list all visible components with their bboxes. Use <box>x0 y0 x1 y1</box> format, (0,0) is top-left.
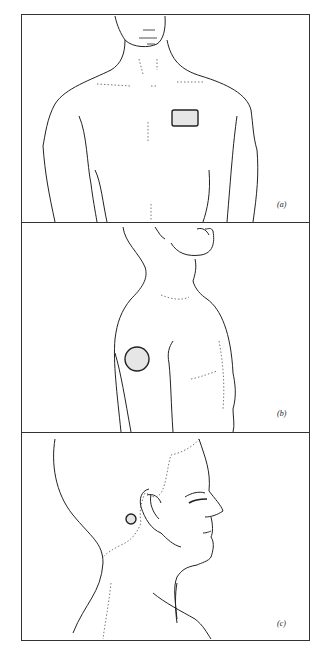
panel-label-c: (c) <box>277 619 286 628</box>
rectangle-marker <box>172 110 198 126</box>
side-torso-illustration <box>21 223 310 432</box>
panel-label-a: (a) <box>277 200 286 209</box>
front-torso-illustration <box>21 14 310 222</box>
panel-b: (b) <box>21 223 310 432</box>
panel-c: (c) <box>21 433 310 641</box>
small-circle-marker <box>126 514 136 524</box>
circle-marker <box>125 347 149 371</box>
panel-a: (a) <box>21 14 310 222</box>
head-profile-illustration <box>21 433 310 641</box>
panel-label-b: (b) <box>277 409 286 418</box>
